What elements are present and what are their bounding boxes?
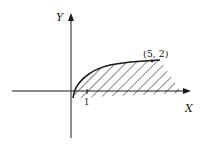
y-axis — [68, 13, 74, 138]
point-label: (5, 2) — [143, 48, 169, 59]
x-axis-arrow-icon — [183, 88, 191, 94]
region-diagram: Y X 1 (5, 2) — [0, 0, 208, 155]
tick-label-1: 1 — [84, 97, 89, 107]
x-axis-label: X — [184, 102, 194, 115]
y-axis-label: Y — [56, 11, 65, 24]
y-axis-arrow-icon — [68, 13, 74, 21]
point-marker — [151, 60, 154, 63]
